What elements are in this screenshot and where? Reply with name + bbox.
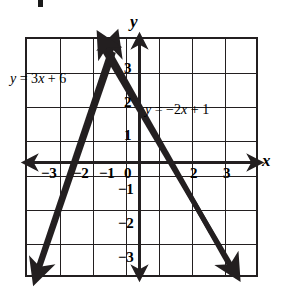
x-tick-label-3: 3 [223,166,230,181]
y-tick-label-neg3: −3 [118,250,133,265]
coordinate-plane-figure: y x −3 −2 −1 0 2 3 3 2 1 −1 −2 −3 y = 3x… [0,0,282,290]
y-tick-label-neg1: −1 [118,182,133,197]
x-tick-label-2: 2 [190,166,197,181]
y-tick-label-3: 3 [124,61,131,76]
y-tick-label-2: 2 [124,95,131,110]
x-tick-label-neg1: −1 [99,166,114,181]
y-tick-label-1: 1 [124,128,131,143]
graph-vector-layer [0,0,282,290]
equation-label-line2: y = −2x + 1 [145,103,209,117]
y-tick-label-neg2: −2 [118,216,133,231]
y-axis-label: y [130,13,138,30]
x-tick-label-neg3: −3 [41,166,56,181]
x-axis-label: x [262,152,271,169]
equation-label-line1: y = 3x + 6 [10,72,66,86]
line-y-equals-minus-2x-plus-1 [104,43,233,269]
x-tick-label-neg2: −2 [73,166,88,181]
x-tick-label-zero: 0 [124,166,131,181]
